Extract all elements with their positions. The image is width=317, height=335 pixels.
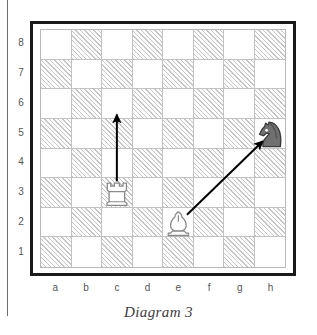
- board-square-b8[interactable]: [72, 30, 103, 60]
- board-square-c6[interactable]: [102, 89, 133, 119]
- board-square-e1[interactable]: [163, 237, 194, 267]
- board-square-a7[interactable]: [41, 60, 72, 90]
- board-square-b2[interactable]: [72, 208, 103, 238]
- board-square-d4[interactable]: [133, 149, 164, 179]
- board-square-g1[interactable]: [224, 237, 255, 267]
- board-square-h6[interactable]: [255, 89, 286, 119]
- board-square-g8[interactable]: [224, 30, 255, 60]
- board-square-f5[interactable]: [194, 119, 225, 149]
- rank-label-3: 3: [14, 186, 28, 197]
- board-square-f3[interactable]: [194, 178, 225, 208]
- board-square-d6[interactable]: [133, 89, 164, 119]
- board-square-c4[interactable]: [102, 149, 133, 179]
- board-square-h3[interactable]: [255, 178, 286, 208]
- board-square-b7[interactable]: [72, 60, 103, 90]
- board-square-g4[interactable]: [224, 149, 255, 179]
- board-square-c2[interactable]: [102, 208, 133, 238]
- rank-label-8: 8: [14, 37, 28, 48]
- board-square-b5[interactable]: [72, 119, 103, 149]
- board-square-h4[interactable]: [255, 149, 286, 179]
- board-square-b4[interactable]: [72, 149, 103, 179]
- board-square-g3[interactable]: [224, 178, 255, 208]
- page-margin-rule: [7, 0, 8, 316]
- board-square-a5[interactable]: [41, 119, 72, 149]
- chess-board[interactable]: [40, 29, 286, 268]
- board-square-h5[interactable]: [255, 119, 286, 149]
- rank-label-2: 2: [14, 216, 28, 227]
- board-square-e7[interactable]: [163, 60, 194, 90]
- board-square-h7[interactable]: [255, 60, 286, 90]
- board-square-c3[interactable]: [102, 178, 133, 208]
- board-square-f6[interactable]: [194, 89, 225, 119]
- board-square-a8[interactable]: [41, 30, 72, 60]
- board-square-h2[interactable]: [255, 208, 286, 238]
- board-square-g2[interactable]: [224, 208, 255, 238]
- board-square-d2[interactable]: [133, 208, 164, 238]
- board-square-b6[interactable]: [72, 89, 103, 119]
- board-square-a4[interactable]: [41, 149, 72, 179]
- file-label-h: h: [262, 282, 280, 293]
- board-square-d7[interactable]: [133, 60, 164, 90]
- file-label-a: a: [46, 282, 64, 293]
- board-square-a6[interactable]: [41, 89, 72, 119]
- board-square-h8[interactable]: [255, 30, 286, 60]
- board-square-d1[interactable]: [133, 237, 164, 267]
- file-label-g: g: [231, 282, 249, 293]
- file-label-b: b: [77, 282, 95, 293]
- board-square-e6[interactable]: [163, 89, 194, 119]
- file-label-f: f: [200, 282, 218, 293]
- board-square-a2[interactable]: [41, 208, 72, 238]
- file-label-d: d: [139, 282, 157, 293]
- board-square-d5[interactable]: [133, 119, 164, 149]
- board-square-c1[interactable]: [102, 237, 133, 267]
- board-square-b1[interactable]: [72, 237, 103, 267]
- board-square-a3[interactable]: [41, 178, 72, 208]
- file-label-e: e: [169, 282, 187, 293]
- board-square-g5[interactable]: [224, 119, 255, 149]
- board-square-f2[interactable]: [194, 208, 225, 238]
- board-square-d3[interactable]: [133, 178, 164, 208]
- board-square-c7[interactable]: [102, 60, 133, 90]
- rank-label-4: 4: [14, 156, 28, 167]
- board-square-h1[interactable]: [255, 237, 286, 267]
- board-square-g7[interactable]: [224, 60, 255, 90]
- board-square-e5[interactable]: [163, 119, 194, 149]
- rank-label-6: 6: [14, 97, 28, 108]
- rank-label-5: 5: [14, 127, 28, 138]
- board-square-g6[interactable]: [224, 89, 255, 119]
- board-square-c5[interactable]: [102, 119, 133, 149]
- board-square-e8[interactable]: [163, 30, 194, 60]
- board-square-f1[interactable]: [194, 237, 225, 267]
- board-square-e4[interactable]: [163, 149, 194, 179]
- board-square-e2[interactable]: [163, 208, 194, 238]
- board-square-a1[interactable]: [41, 237, 72, 267]
- rank-label-1: 1: [14, 246, 28, 257]
- board-square-d8[interactable]: [133, 30, 164, 60]
- board-square-c8[interactable]: [102, 30, 133, 60]
- board-square-f8[interactable]: [194, 30, 225, 60]
- board-square-e3[interactable]: [163, 178, 194, 208]
- board-square-f7[interactable]: [194, 60, 225, 90]
- diagram-caption: Diagram 3: [0, 304, 317, 321]
- board-square-b3[interactable]: [72, 178, 103, 208]
- rank-label-7: 7: [14, 67, 28, 78]
- file-label-c: c: [108, 282, 126, 293]
- board-square-f4[interactable]: [194, 149, 225, 179]
